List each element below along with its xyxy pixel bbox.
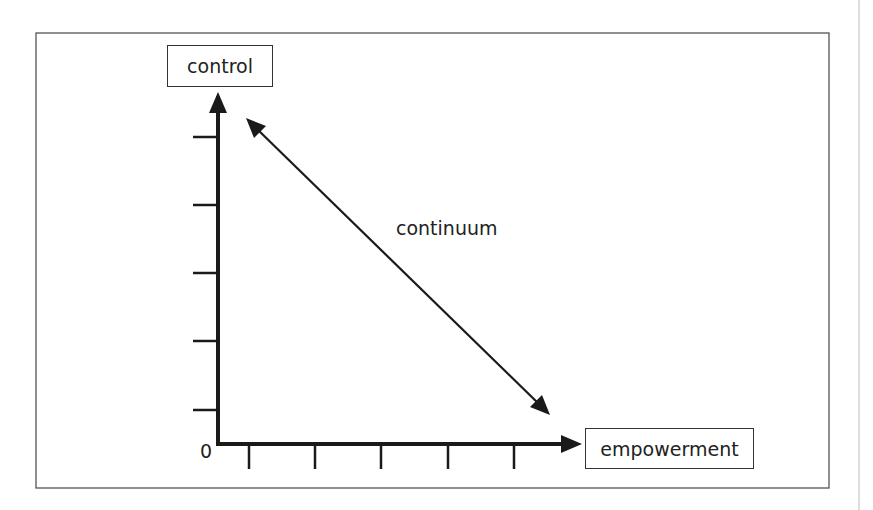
figure-frame bbox=[36, 33, 829, 488]
y-axis-label: control bbox=[187, 55, 253, 77]
y-axis-arrowhead-icon bbox=[209, 92, 227, 113]
y-axis-label-box: control bbox=[167, 45, 273, 87]
continuum-label: continuum bbox=[396, 217, 497, 239]
x-axis-label: empowerment bbox=[600, 438, 738, 460]
x-axis-label-box: empowerment bbox=[585, 428, 754, 469]
continuum-double-arrow bbox=[246, 118, 550, 415]
x-axis-arrowhead-icon bbox=[561, 435, 582, 453]
origin-label: 0 bbox=[200, 440, 212, 462]
x-axis bbox=[216, 435, 582, 469]
y-axis bbox=[193, 92, 227, 444]
